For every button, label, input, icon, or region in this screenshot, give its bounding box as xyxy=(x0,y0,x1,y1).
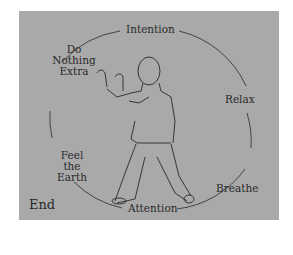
label-intention: Intention xyxy=(126,24,175,35)
label-do-nothing-extra: Do Nothing Extra xyxy=(51,44,97,77)
label-feel-the-earth: Feel the Earth xyxy=(52,150,92,183)
label-relax: Relax xyxy=(225,94,255,105)
label-attention: Attention xyxy=(128,203,177,214)
tai-chi-figure xyxy=(97,57,194,204)
label-breathe: Breathe xyxy=(216,183,258,194)
end-label: End xyxy=(29,197,55,212)
diagram-panel: Intention Relax Breathe Attention Do Not… xyxy=(19,11,279,220)
